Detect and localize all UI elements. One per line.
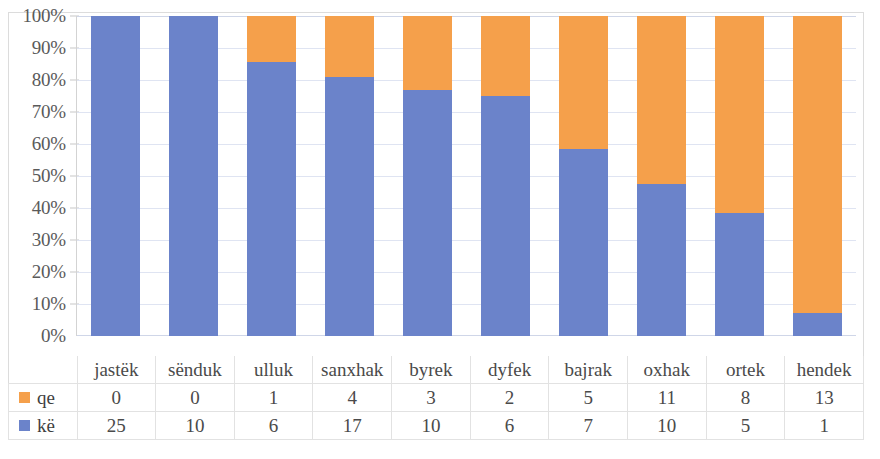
y-axis-tick-label: 90% <box>32 37 66 59</box>
table-value-cell-ke: 10 <box>627 412 706 440</box>
bar-segment-ke[interactable] <box>793 313 842 336</box>
bar-group <box>77 16 856 336</box>
table-value-cell-ke: 25 <box>77 412 156 440</box>
bar-slot <box>544 16 622 336</box>
y-axis-tick-label: 100% <box>22 5 66 27</box>
table-value-cell-ke: 6 <box>470 412 549 440</box>
stacked-bar[interactable] <box>559 16 608 336</box>
table-value-cell-qe: 5 <box>549 384 628 412</box>
stacked-bar[interactable] <box>91 16 140 336</box>
bar-slot <box>700 16 778 336</box>
bar-segment-qe[interactable] <box>637 16 686 184</box>
table-value-cell-qe: 3 <box>392 384 471 412</box>
table-value-cell-qe: 0 <box>77 384 156 412</box>
percent-stacked-bar-chart: 100%90%80%70%60%50%40%30%20%10%0% jastëk… <box>0 0 880 459</box>
bar-segment-ke[interactable] <box>637 184 686 336</box>
bar-segment-qe[interactable] <box>559 16 608 149</box>
table-value-cell-ke: 1 <box>785 412 864 440</box>
table-value-cell-qe: 13 <box>785 384 864 412</box>
bar-slot <box>77 16 155 336</box>
table-category-cell: bajrak <box>549 356 628 384</box>
y-axis: 100%90%80%70%60%50%40%30%20%10%0% <box>8 16 74 336</box>
table-category-cell: byrek <box>392 356 471 384</box>
y-axis-tick-label: 60% <box>32 133 66 155</box>
table-value-cell-ke: 17 <box>313 412 392 440</box>
table-category-cell: oxhak <box>627 356 706 384</box>
y-axis-tick-label: 40% <box>32 197 66 219</box>
table-value-cell-ke: 10 <box>392 412 471 440</box>
stacked-bar[interactable] <box>793 16 842 336</box>
y-axis-tick-label: 70% <box>32 101 66 123</box>
table-category-cell: sënduk <box>156 356 235 384</box>
stacked-bar[interactable] <box>715 16 764 336</box>
series-row-ke: kë 251061710671051 <box>9 412 864 440</box>
legend-swatch-qe-icon <box>19 392 30 403</box>
series-row-qe: qe 001432511813 <box>9 384 864 412</box>
table-corner-cell <box>9 356 78 384</box>
table-value-cell-ke: 5 <box>706 412 785 440</box>
bar-segment-ke[interactable] <box>559 149 608 336</box>
plot-area: 100%90%80%70%60%50%40%30%20%10%0% <box>8 16 864 356</box>
bar-segment-qe[interactable] <box>481 16 530 96</box>
bar-segment-qe[interactable] <box>403 16 452 90</box>
bar-segment-ke[interactable] <box>325 77 374 336</box>
legend-swatch-ke-icon <box>19 420 30 431</box>
table-value-cell-qe: 11 <box>627 384 706 412</box>
legend-label-qe: qe <box>37 388 55 407</box>
y-axis-tick-label: 30% <box>32 229 66 251</box>
bar-segment-ke[interactable] <box>91 16 140 336</box>
table-category-cell: sanxhak <box>313 356 392 384</box>
table-category-cell: jastëk <box>77 356 156 384</box>
table-category-cell: ulluk <box>234 356 313 384</box>
legend-entry-ke[interactable]: kë <box>9 412 78 440</box>
data-table-body: jastëksëndukulluksanxhakbyrekdyfekbajrak… <box>9 356 864 440</box>
y-axis-tick-label: 50% <box>32 165 66 187</box>
bar-segment-qe[interactable] <box>325 16 374 77</box>
stacked-bar[interactable] <box>637 16 686 336</box>
table-value-cell-qe: 4 <box>313 384 392 412</box>
stacked-bar[interactable] <box>481 16 530 336</box>
bar-slot <box>467 16 545 336</box>
bar-slot <box>389 16 467 336</box>
legend-label-ke: kë <box>37 416 55 435</box>
stacked-bar[interactable] <box>169 16 218 336</box>
bar-segment-ke[interactable] <box>481 96 530 336</box>
table-value-cell-qe: 0 <box>156 384 235 412</box>
y-axis-tick-label: 0% <box>41 325 66 347</box>
category-header-row: jastëksëndukulluksanxhakbyrekdyfekbajrak… <box>9 356 864 384</box>
table-category-cell: dyfek <box>470 356 549 384</box>
bar-segment-qe[interactable] <box>793 16 842 313</box>
stacked-bar[interactable] <box>247 16 296 336</box>
stacked-bar[interactable] <box>325 16 374 336</box>
stacked-bar[interactable] <box>403 16 452 336</box>
y-axis-tick-label: 10% <box>32 293 66 315</box>
table-value-cell-ke: 10 <box>156 412 235 440</box>
bar-segment-qe[interactable] <box>247 16 296 62</box>
bar-segment-ke[interactable] <box>247 62 296 336</box>
plot-canvas <box>76 16 856 336</box>
bar-slot <box>778 16 856 336</box>
table-value-cell-qe: 2 <box>470 384 549 412</box>
bar-segment-qe[interactable] <box>715 16 764 213</box>
table-value-cell-qe: 1 <box>234 384 313 412</box>
bar-slot <box>311 16 389 336</box>
bar-segment-ke[interactable] <box>169 16 218 336</box>
bar-slot <box>622 16 700 336</box>
bar-slot <box>155 16 233 336</box>
data-table: jastëksëndukulluksanxhakbyrekdyfekbajrak… <box>8 356 864 440</box>
table-value-cell-qe: 8 <box>706 384 785 412</box>
table-category-cell: hendek <box>785 356 864 384</box>
bar-slot <box>233 16 311 336</box>
bar-segment-ke[interactable] <box>403 90 452 336</box>
legend-entry-qe[interactable]: qe <box>9 384 78 412</box>
table-value-cell-ke: 6 <box>234 412 313 440</box>
y-axis-tick-label: 20% <box>32 261 66 283</box>
y-axis-tick-label: 80% <box>32 69 66 91</box>
table-category-cell: ortek <box>706 356 785 384</box>
bar-segment-ke[interactable] <box>715 213 764 336</box>
table-value-cell-ke: 7 <box>549 412 628 440</box>
